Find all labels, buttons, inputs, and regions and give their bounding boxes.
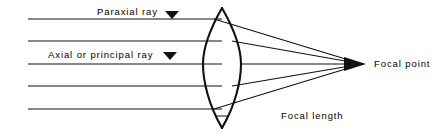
refracted-ray-4: [232, 64, 362, 86]
paraxial-triangle-down-icon: [165, 11, 179, 19]
focal-length-label: Focal length: [281, 111, 344, 121]
lens-ray-diagram: Paraxial ray Axial or principal ray Foca…: [0, 0, 444, 137]
axial-principal-ray-label: Axial or principal ray: [48, 50, 153, 60]
paraxial-ray-label: Paraxial ray: [97, 7, 158, 17]
incoming-ray-group: [28, 19, 222, 109]
refracted-ray-5: [214, 64, 362, 109]
focal-point-arrow-icon: [344, 57, 366, 71]
focal-point-label: Focal point: [374, 59, 430, 69]
axial-triangle-down-icon: [163, 52, 177, 60]
lens-left-surface: [203, 8, 222, 128]
